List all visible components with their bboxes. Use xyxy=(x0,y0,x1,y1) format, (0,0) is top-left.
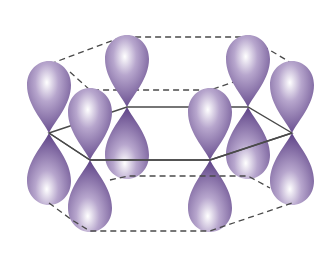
diagram-canvas xyxy=(0,0,336,264)
benzene-p-orbital-diagram: p-orbitals of benzene ring xyxy=(0,0,336,264)
